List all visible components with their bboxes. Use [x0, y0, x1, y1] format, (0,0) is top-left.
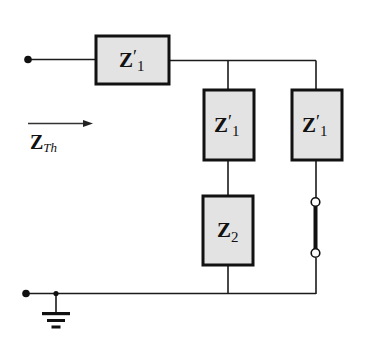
junction-dot — [53, 291, 58, 296]
short-terminal-top — [311, 198, 320, 207]
component-middle-z2: Z2 — [203, 196, 253, 265]
thevenin-arrow — [28, 120, 93, 127]
circuit-diagram: ZTh Z′1 Z′1 Z2 Z′1 — [0, 0, 367, 349]
input-terminal-bottom — [22, 290, 30, 298]
component-middle-z1-prime: Z′1 — [204, 90, 254, 160]
component-series-z1-prime: Z′1 — [96, 36, 169, 84]
short-terminal-bottom — [311, 249, 320, 258]
component-right-z1-prime: Z′1 — [292, 90, 342, 160]
wires — [26, 60, 316, 313]
input-terminal-top — [24, 56, 32, 64]
ground-icon — [42, 312, 70, 329]
thevenin-label: ZTh — [30, 131, 57, 155]
